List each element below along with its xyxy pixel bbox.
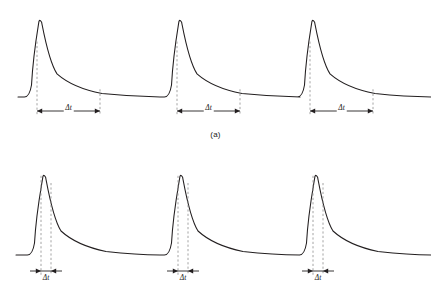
dimension-arrow-right-icon <box>323 269 328 274</box>
delta-t-label: Δt <box>63 103 74 112</box>
pulse-annotation-group <box>167 176 199 275</box>
panel-b-plot <box>0 155 431 307</box>
dimension-arrow-left-icon <box>310 109 315 114</box>
dimension-arrow-left-icon <box>177 109 182 114</box>
pulse-train-curve <box>18 20 431 97</box>
dimension-arrow-right-icon <box>95 109 100 114</box>
pulse-annotation-group <box>302 176 334 275</box>
delta-t-label: Δt <box>336 103 347 112</box>
dimension-arrow-right-icon <box>368 109 373 114</box>
dimension-arrow-left-icon <box>37 109 42 114</box>
delta-t-label: Δt <box>315 273 322 282</box>
panel-a-caption: (a) <box>0 130 431 139</box>
delta-t-label: Δt <box>203 103 214 112</box>
figure-root: (a) ΔtΔtΔt (b) ΔtΔtΔt <box>0 0 431 307</box>
dimension-arrow-right-icon <box>235 109 240 114</box>
pulse-annotation-group <box>30 176 62 275</box>
delta-t-label: Δt <box>43 273 50 282</box>
panel-b: (b) ΔtΔtΔt <box>0 155 431 307</box>
panel-a: (a) ΔtΔtΔt <box>0 0 431 155</box>
dimension-arrow-left-icon <box>308 269 313 274</box>
dimension-arrow-right-icon <box>188 269 193 274</box>
dimension-arrow-left-icon <box>36 269 41 274</box>
dimension-arrow-right-icon <box>51 269 56 274</box>
pulse-train-curve <box>16 175 431 255</box>
delta-t-label: Δt <box>180 273 187 282</box>
dimension-arrow-left-icon <box>173 269 178 274</box>
